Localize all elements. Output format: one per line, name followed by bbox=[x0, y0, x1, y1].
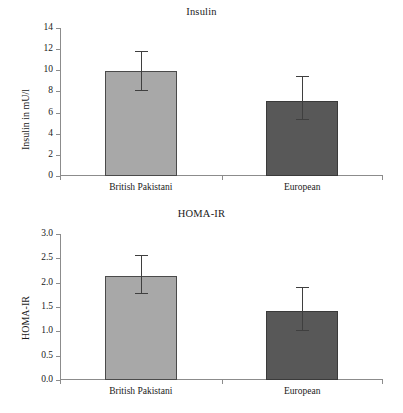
error-bar-cap-upper bbox=[296, 76, 309, 77]
x-axis-category-label: British Pakistani bbox=[109, 182, 172, 192]
x-axis-category-label: British Pakistani bbox=[109, 386, 172, 396]
y-axis-tick-label: 8 bbox=[48, 87, 53, 97]
y-axis-tick bbox=[56, 70, 60, 71]
y-axis-tick bbox=[56, 113, 60, 114]
y-axis-tick-label: 14 bbox=[44, 23, 54, 33]
error-bar-cap-lower bbox=[296, 330, 309, 331]
x-axis-category-label: European bbox=[284, 386, 320, 396]
error-bar-line bbox=[141, 255, 142, 293]
error-bar-cap-lower bbox=[135, 90, 148, 91]
error-bar-cap-lower bbox=[135, 293, 148, 294]
y-axis-tick-label: 0 bbox=[48, 171, 53, 181]
chart-title-insulin: Insulin bbox=[0, 6, 403, 17]
y-axis-tick-label: 6 bbox=[48, 108, 53, 118]
y-axis-label-insulin: Insulin in mU/l bbox=[20, 89, 31, 150]
x-axis-tick bbox=[222, 380, 223, 384]
error-bar-line bbox=[302, 76, 303, 119]
y-axis-tick bbox=[56, 307, 60, 308]
y-axis-tick bbox=[56, 155, 60, 156]
chart-title-homa-ir: HOMA-IR bbox=[0, 208, 403, 219]
y-axis-tick bbox=[56, 258, 60, 259]
y-axis-tick-label: 2.0 bbox=[41, 278, 53, 288]
y-axis-tick bbox=[56, 91, 60, 92]
y-axis-tick-label: 1.0 bbox=[41, 327, 53, 337]
error-bar-cap-upper bbox=[296, 287, 309, 288]
error-bar-line bbox=[302, 287, 303, 330]
y-axis-tick bbox=[56, 283, 60, 284]
y-axis-tick bbox=[56, 49, 60, 50]
y-axis-tick bbox=[56, 134, 60, 135]
figure-two-panel-bar-charts: Insulin Insulin in mU/l 02468101214 Brit… bbox=[0, 0, 403, 413]
x-axis-tick-origin bbox=[60, 176, 61, 180]
y-axis-tick-label: 1.5 bbox=[41, 302, 53, 312]
error-bar-cap-upper bbox=[135, 255, 148, 256]
error-bar-cap-lower bbox=[296, 119, 309, 120]
x-axis-tick bbox=[222, 176, 223, 180]
chart-panel-homa-ir: HOMA-IR HOMA-IR 0.00.51.01.52.02.53.0 Br… bbox=[0, 200, 403, 413]
y-axis-tick-label: 10 bbox=[44, 66, 54, 76]
error-bar-line bbox=[141, 51, 142, 90]
plot-area-homa-ir: 0.00.51.01.52.02.53.0 bbox=[60, 234, 383, 380]
y-axis-line bbox=[60, 234, 61, 380]
plot-area-insulin: 02468101214 bbox=[60, 28, 383, 176]
chart-panel-insulin: Insulin Insulin in mU/l 02468101214 Brit… bbox=[0, 0, 403, 200]
x-axis-tick-origin bbox=[60, 380, 61, 384]
y-axis-tick-label: 0.0 bbox=[41, 375, 53, 385]
y-axis-tick-label: 4 bbox=[48, 129, 53, 139]
y-axis-tick bbox=[56, 234, 60, 235]
error-bar-cap-upper bbox=[135, 51, 148, 52]
y-axis-tick bbox=[56, 331, 60, 332]
y-axis-line bbox=[60, 28, 61, 176]
y-axis-tick-label: 12 bbox=[44, 44, 54, 54]
x-axis-category-label: European bbox=[284, 182, 320, 192]
y-axis-tick bbox=[56, 356, 60, 357]
x-axis-tick bbox=[382, 380, 383, 384]
y-axis-tick-label: 2 bbox=[48, 150, 53, 160]
y-axis-tick-label: 0.5 bbox=[41, 351, 53, 361]
y-axis-tick-label: 2.5 bbox=[41, 254, 53, 264]
y-axis-tick-label: 3.0 bbox=[41, 229, 53, 239]
y-axis-label-homa-ir: HOMA-IR bbox=[20, 296, 31, 340]
x-axis-tick bbox=[382, 176, 383, 180]
y-axis-tick bbox=[56, 28, 60, 29]
